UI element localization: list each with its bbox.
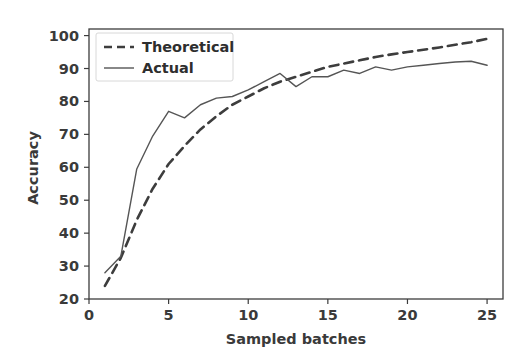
series-line-actual <box>105 61 487 272</box>
chart-figure-root: 2030405060708090100 0510152025 Theoretic… <box>0 0 530 354</box>
x-axis-ticks: 0510152025 <box>84 299 497 323</box>
x-tick-label: 20 <box>397 307 417 323</box>
y-tick-label: 30 <box>59 258 79 274</box>
y-tick-label: 70 <box>59 126 79 142</box>
y-tick-label: 60 <box>59 159 79 175</box>
x-tick-label: 0 <box>84 307 94 323</box>
y-tick-label: 100 <box>49 28 79 44</box>
y-axis-title: Accuracy <box>25 131 41 205</box>
accuracy-vs-sampled-batches-chart: 2030405060708090100 0510152025 Theoretic… <box>0 0 530 354</box>
y-tick-label: 80 <box>59 93 79 109</box>
x-tick-label: 25 <box>477 307 497 323</box>
chart-legend: TheoreticalActual <box>96 33 234 81</box>
x-tick-label: 15 <box>318 307 338 323</box>
x-tick-label: 5 <box>164 307 174 323</box>
y-tick-label: 40 <box>59 225 79 241</box>
x-tick-label: 10 <box>238 307 258 323</box>
legend-label-actual: Actual <box>142 60 194 76</box>
chart-svg: 2030405060708090100 0510152025 Theoretic… <box>0 0 530 354</box>
y-tick-label: 50 <box>59 192 79 208</box>
x-axis-title: Sampled batches <box>226 331 366 347</box>
y-axis-ticks: 2030405060708090100 <box>49 28 89 307</box>
y-tick-label: 20 <box>59 291 79 307</box>
y-tick-label: 90 <box>59 61 79 77</box>
legend-label-theoretical: Theoretical <box>142 39 234 55</box>
